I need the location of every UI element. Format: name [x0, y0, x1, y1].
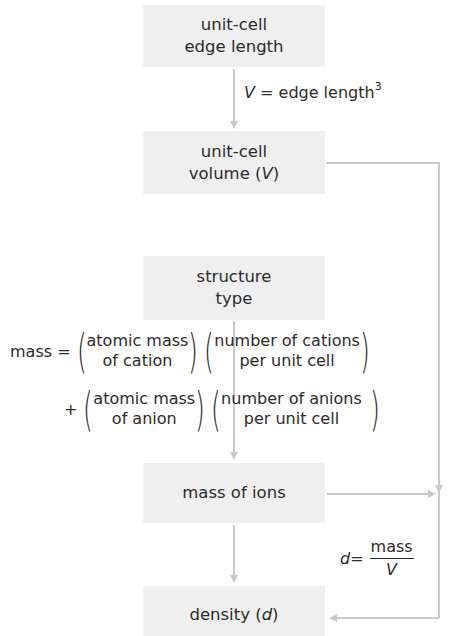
- term-atomic-mass-cation: ( atomic massof cation ): [73, 328, 203, 374]
- arrowhead-right-icon: [428, 490, 436, 498]
- left-paren: (: [211, 386, 221, 432]
- node-structure-line2: type: [216, 288, 253, 310]
- left-paren: (: [77, 328, 87, 374]
- connector-mass-to-density: [233, 525, 235, 577]
- connector-right-vertical: [438, 162, 440, 618]
- plus-sign: +: [64, 400, 77, 419]
- arrowhead-down-icon: [230, 121, 238, 129]
- arrowhead-down-icon: [230, 452, 238, 460]
- connector-right-to-density: [336, 617, 439, 619]
- mass-formula-row2: + ( atomic massof anion ) ( number of an…: [64, 386, 384, 432]
- volume-formula: V = edge length3: [244, 83, 382, 102]
- arrowhead-down-icon: [230, 575, 238, 583]
- term-anions-per-cell: ( number of anionsper unit cell ): [207, 386, 384, 432]
- right-paren: ): [195, 386, 205, 432]
- connector-mass-right: [327, 493, 430, 495]
- connector-edge-to-volume: [233, 69, 235, 123]
- right-paren: ): [188, 328, 198, 374]
- right-paren: ): [360, 328, 370, 374]
- node-mass-line1: mass of ions: [182, 482, 286, 504]
- node-mass-of-ions: mass of ions: [143, 463, 325, 523]
- connector-volume-right: [326, 162, 439, 164]
- node-structure-line1: structure: [197, 266, 272, 288]
- fraction: mass V: [370, 537, 414, 580]
- node-edge-length: unit-cell edge length: [143, 5, 325, 67]
- left-paren: (: [204, 328, 214, 374]
- mass-formula-row1: mass = ( atomic massof cation ) ( number…: [10, 328, 374, 374]
- right-paren: ): [370, 386, 380, 432]
- node-volume-line2: volume (V): [189, 163, 280, 185]
- node-structure-type: structure type: [143, 256, 325, 320]
- density-formula: d = mass V: [340, 537, 414, 580]
- term-cations-per-cell: ( number of cationsper unit cell ): [200, 328, 374, 374]
- mass-lhs: mass =: [10, 342, 71, 361]
- left-paren: (: [83, 386, 93, 432]
- arrowhead-down-icon: [435, 485, 443, 493]
- term-atomic-mass-anion: ( atomic massof anion ): [79, 386, 209, 432]
- node-density-label: density (d): [189, 604, 278, 626]
- node-edge-length-line2: edge length: [184, 36, 283, 58]
- arrowhead-left-icon: [329, 614, 337, 622]
- node-unit-cell-volume: unit-cell volume (V): [143, 131, 325, 194]
- node-density: density (d): [143, 586, 325, 636]
- node-edge-length-line1: unit-cell: [201, 14, 267, 36]
- node-volume-line1: unit-cell: [201, 141, 267, 163]
